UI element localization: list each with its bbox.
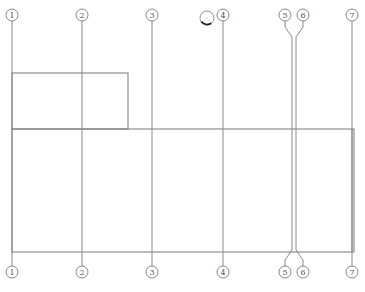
axis-7: 77 bbox=[346, 9, 358, 278]
axis-label: 1 bbox=[9, 268, 14, 277]
bottom-axis-bubble: 4 bbox=[217, 266, 229, 278]
axis-5: 55 bbox=[279, 9, 292, 278]
top-axis-bubble: 3 bbox=[146, 9, 158, 21]
bottom-axis-bubble: 3 bbox=[146, 266, 158, 278]
axis-label: 7 bbox=[349, 11, 354, 20]
bottom-axis-bubble: 5 bbox=[279, 266, 291, 278]
axis-label: 4 bbox=[220, 268, 225, 277]
top-axis-bubble: 6 bbox=[297, 9, 309, 21]
top-axis-bubble: 1 bbox=[6, 9, 18, 21]
outline-rectangles bbox=[12, 73, 354, 252]
axis-label: 3 bbox=[149, 11, 154, 20]
axis-2: 22 bbox=[76, 9, 88, 278]
axis-label: 6 bbox=[300, 268, 305, 277]
grid-axes: 11223344556677 bbox=[6, 9, 358, 278]
axis-label: 5 bbox=[282, 11, 287, 20]
main-hall-outline bbox=[12, 129, 354, 252]
axis-label: 3 bbox=[149, 268, 154, 277]
grid-plan-drawing: 11223344556677 bbox=[0, 0, 365, 292]
marker-center-dot-icon bbox=[206, 17, 207, 18]
north-marker bbox=[200, 11, 214, 25]
axis-label: 4 bbox=[220, 11, 225, 20]
axis-label: 1 bbox=[9, 11, 14, 20]
bottom-axis-bubble: 1 bbox=[6, 266, 18, 278]
small-room-outline bbox=[12, 73, 128, 129]
top-axis-bubble: 4 bbox=[217, 9, 229, 21]
axis-leader-line bbox=[285, 21, 292, 266]
bottom-axis-bubble: 7 bbox=[346, 266, 358, 278]
top-axis-bubble: 2 bbox=[76, 9, 88, 21]
axis-label: 2 bbox=[79, 11, 84, 20]
axis-4: 44 bbox=[217, 9, 229, 278]
axis-label: 6 bbox=[300, 11, 305, 20]
axis-label: 2 bbox=[79, 268, 84, 277]
bottom-axis-bubble: 6 bbox=[297, 266, 309, 278]
axis-6: 66 bbox=[296, 9, 309, 278]
axis-3: 33 bbox=[146, 9, 158, 278]
axis-label: 7 bbox=[349, 268, 354, 277]
axis-label: 5 bbox=[282, 268, 287, 277]
axis-1: 11 bbox=[6, 9, 18, 278]
top-axis-bubble: 5 bbox=[279, 9, 291, 21]
top-axis-bubble: 7 bbox=[346, 9, 358, 21]
bottom-axis-bubble: 2 bbox=[76, 266, 88, 278]
axis-leader-line bbox=[296, 21, 303, 266]
